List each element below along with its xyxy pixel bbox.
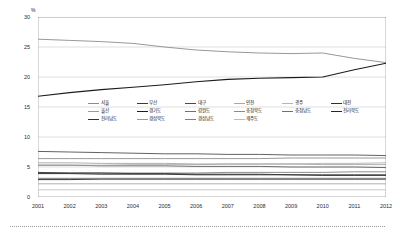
legend-label: 울산 bbox=[101, 108, 109, 114]
legend-label: 전라북도 bbox=[343, 108, 359, 114]
legend-label: 제주도 bbox=[246, 116, 258, 122]
legend-label: 인천 bbox=[246, 100, 254, 106]
legend-item[interactable]: 전라남도 bbox=[88, 115, 137, 123]
y-tick-label: 5 bbox=[14, 164, 30, 170]
legend-item[interactable]: 경기도 bbox=[137, 107, 186, 115]
legend-color-swatch bbox=[137, 119, 148, 120]
legend-item[interactable]: 전라북도 bbox=[331, 107, 380, 115]
series-line bbox=[38, 158, 386, 159]
legend-label: 전라남도 bbox=[101, 116, 117, 122]
y-tick-label: 30 bbox=[14, 14, 30, 20]
x-tick-label: 2011 bbox=[339, 203, 369, 209]
legend-color-swatch bbox=[137, 103, 148, 104]
y-tick-label: 25 bbox=[14, 44, 30, 50]
x-tick-label: 2003 bbox=[86, 203, 116, 209]
legend-color-swatch bbox=[282, 111, 293, 112]
legend-item[interactable]: 인천 bbox=[234, 99, 283, 107]
legend-item[interactable]: 경상북도 bbox=[137, 115, 186, 123]
legend-color-swatch bbox=[137, 111, 148, 112]
legend-color-swatch bbox=[185, 103, 196, 104]
legend-color-swatch bbox=[234, 119, 245, 120]
y-axis-unit-label: % bbox=[31, 7, 35, 13]
legend-label: 서울 bbox=[101, 100, 109, 106]
legend-label: 충청남도 bbox=[295, 108, 311, 114]
legend-item[interactable]: 부산 bbox=[137, 99, 186, 107]
legend-item[interactable]: 서울 bbox=[88, 99, 137, 107]
x-tick-label: 2005 bbox=[150, 203, 180, 209]
legend-item[interactable]: 제주도 bbox=[234, 115, 283, 123]
x-tick-label: 2004 bbox=[118, 203, 148, 209]
legend-item[interactable]: 충청남도 bbox=[282, 107, 331, 115]
legend-item[interactable]: 강원도 bbox=[185, 107, 234, 115]
x-tick-label: 2002 bbox=[55, 203, 85, 209]
legend-color-swatch bbox=[88, 103, 99, 104]
y-tick-label: 0 bbox=[14, 194, 30, 200]
x-tick-label: 2006 bbox=[181, 203, 211, 209]
legend-label: 대전 bbox=[343, 100, 351, 106]
chart-legend: 서울부산대구인천광주대전울산경기도강원도충청북도충청남도전라북도전라남도경상북도… bbox=[88, 99, 380, 123]
chart-figure: % 051015202530 2001200220032004200520062… bbox=[0, 0, 395, 235]
legend-item[interactable]: 경상남도 bbox=[185, 115, 234, 123]
legend-color-swatch bbox=[88, 119, 99, 120]
legend-item[interactable]: 광주 bbox=[282, 99, 331, 107]
legend-label: 경상남도 bbox=[198, 116, 214, 122]
y-tick-label: 10 bbox=[14, 134, 30, 140]
x-tick-label: 2010 bbox=[308, 203, 338, 209]
legend-label: 경기도 bbox=[149, 108, 161, 114]
legend-color-swatch bbox=[331, 103, 342, 104]
legend-color-swatch bbox=[88, 111, 99, 112]
legend-item[interactable]: 대전 bbox=[331, 99, 380, 107]
legend-label: 부산 bbox=[149, 100, 157, 106]
y-tick-label: 20 bbox=[14, 74, 30, 80]
x-tick-label: 2008 bbox=[244, 203, 274, 209]
y-tick-label: 15 bbox=[14, 104, 30, 110]
series-line bbox=[38, 151, 386, 155]
x-tick-label: 2012 bbox=[371, 203, 395, 209]
series-line bbox=[38, 39, 386, 62]
legend-color-swatch bbox=[234, 111, 245, 112]
legend-color-swatch bbox=[331, 111, 342, 112]
x-tick-label: 2009 bbox=[276, 203, 306, 209]
legend-item[interactable]: 충청북도 bbox=[234, 107, 283, 115]
legend-color-swatch bbox=[185, 119, 196, 120]
legend-color-swatch bbox=[282, 103, 293, 104]
page-divider bbox=[10, 226, 385, 227]
legend-color-swatch bbox=[185, 111, 196, 112]
legend-label: 광주 bbox=[295, 100, 303, 106]
legend-color-swatch bbox=[234, 103, 245, 104]
series-line bbox=[38, 63, 386, 96]
x-tick-label: 2001 bbox=[23, 203, 53, 209]
legend-label: 대구 bbox=[198, 100, 206, 106]
legend-item[interactable]: 울산 bbox=[88, 107, 137, 115]
x-tick-label: 2007 bbox=[213, 203, 243, 209]
legend-label: 충청북도 bbox=[246, 108, 262, 114]
legend-item[interactable]: 대구 bbox=[185, 99, 234, 107]
legend-label: 강원도 bbox=[198, 108, 210, 114]
legend-label: 경상북도 bbox=[149, 116, 165, 122]
